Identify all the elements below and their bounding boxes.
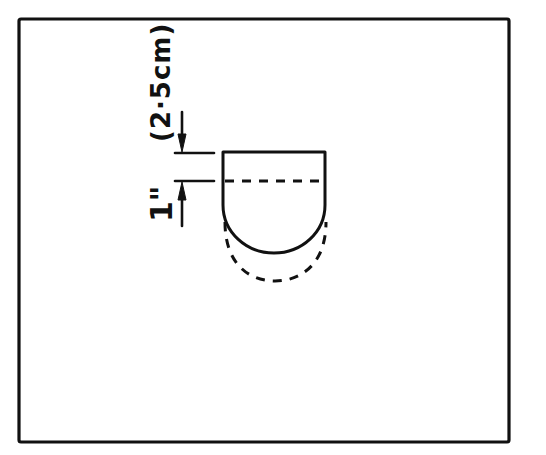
imperial-dimension-label: 1" [144, 185, 179, 222]
metric-dimension-label: (2·5cm) [146, 23, 176, 142]
diagram-frame [19, 19, 509, 442]
diagram-canvas: (2·5cm) 1" [0, 0, 546, 455]
